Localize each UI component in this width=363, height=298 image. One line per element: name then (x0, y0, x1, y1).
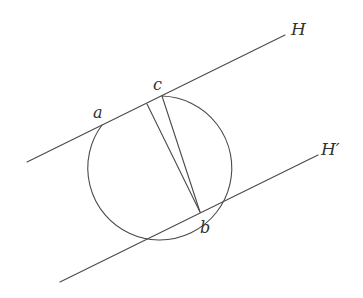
chord-inner-to-b (147, 104, 200, 212)
label-h: H (290, 19, 307, 39)
label-point-c: c (153, 75, 162, 94)
line-h (27, 35, 285, 162)
chord-c-to-b (162, 96, 200, 212)
geometry-figure: H H′ a c b (0, 0, 363, 298)
line-h-prime (60, 155, 318, 282)
label-point-a: a (93, 103, 103, 122)
label-point-b: b (200, 218, 210, 237)
label-h-prime: H′ (320, 139, 340, 159)
diagram-canvas: H H′ a c b (0, 0, 363, 298)
